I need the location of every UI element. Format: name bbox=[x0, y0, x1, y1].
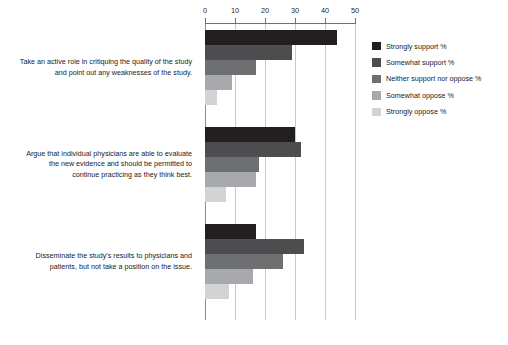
category-label-group: Take an active role in critiquing the qu… bbox=[0, 0, 198, 345]
legend-item-label: Neither support nor oppose % bbox=[386, 74, 482, 83]
bar-group-1-series-2 bbox=[205, 45, 292, 60]
legend-item-4[interactable]: Somewhat oppose % bbox=[372, 87, 482, 103]
category-label-line: continue practicing as they think best. bbox=[2, 170, 192, 180]
bar-group-1-series-1 bbox=[205, 30, 337, 45]
x-axis-tick-label: 50 bbox=[351, 6, 359, 15]
legend-item-1[interactable]: Strongly support % bbox=[372, 38, 482, 54]
gridline-20 bbox=[265, 24, 266, 320]
legend-swatch-icon bbox=[372, 75, 381, 84]
bar-group-3-series-3 bbox=[205, 254, 283, 269]
x-axis-tick-label: 20 bbox=[261, 6, 269, 15]
legend-swatch-icon bbox=[372, 58, 381, 67]
x-axis-tick-label: 40 bbox=[321, 6, 329, 15]
legend-item-label: Somewhat support % bbox=[386, 58, 454, 67]
bar-group-1-series-5 bbox=[205, 90, 217, 105]
gridline-30 bbox=[295, 24, 296, 320]
legend-item-label: Strongly oppose % bbox=[386, 107, 446, 116]
x-axis-tick-10 bbox=[235, 18, 236, 24]
legend-swatch-icon bbox=[372, 42, 381, 51]
bar-group-2-series-1 bbox=[205, 127, 295, 142]
bar-group-2-series-4 bbox=[205, 172, 256, 187]
legend-item-3[interactable]: Neither support nor oppose % bbox=[372, 71, 482, 87]
x-axis-tick-label: 0 bbox=[203, 6, 207, 15]
legend-item-label: Somewhat oppose % bbox=[386, 91, 454, 100]
category-label-3: Disseminate the study's results to physi… bbox=[2, 251, 192, 272]
legend-swatch-icon bbox=[372, 91, 381, 100]
x-axis-tick-label: 10 bbox=[231, 6, 239, 15]
legend-item-5[interactable]: Strongly oppose % bbox=[372, 104, 482, 120]
x-axis-tick-40 bbox=[325, 18, 326, 24]
category-label-line: Argue that individual physicians are abl… bbox=[2, 149, 192, 159]
horizontal-bar-chart: Take an active role in critiquing the qu… bbox=[0, 0, 508, 345]
chart-legend: Strongly support %Somewhat support %Neit… bbox=[372, 38, 482, 120]
legend-item-label: Strongly support % bbox=[386, 42, 447, 51]
bar-group-1-series-4 bbox=[205, 75, 232, 90]
x-axis-line bbox=[205, 23, 356, 24]
x-axis-tick-30 bbox=[295, 18, 296, 24]
legend-item-2[interactable]: Somewhat support % bbox=[372, 54, 482, 70]
bar-group-2-series-2 bbox=[205, 142, 301, 157]
category-label-2: Argue that individual physicians are abl… bbox=[2, 149, 192, 180]
bar-group-3-series-2 bbox=[205, 239, 304, 254]
bar-group-2-series-3 bbox=[205, 157, 259, 172]
category-label-line: Disseminate the study's results to physi… bbox=[2, 251, 192, 261]
category-label-line: the new evidence and should be permitted… bbox=[2, 159, 192, 169]
x-axis-tick-0 bbox=[205, 18, 206, 24]
x-axis-tick-label: 30 bbox=[291, 6, 299, 15]
bar-group-1-series-3 bbox=[205, 60, 256, 75]
gridline-40 bbox=[325, 24, 326, 320]
plot-area bbox=[205, 24, 355, 320]
gridline-50 bbox=[355, 24, 356, 320]
category-label-line: Take an active role in critiquing the qu… bbox=[2, 57, 192, 67]
category-label-1: Take an active role in critiquing the qu… bbox=[2, 57, 192, 78]
legend-swatch-icon bbox=[372, 108, 381, 117]
bar-group-2-series-5 bbox=[205, 187, 226, 202]
x-axis-tick-50 bbox=[355, 18, 356, 24]
x-axis-tick-20 bbox=[265, 18, 266, 24]
bar-group-3-series-4 bbox=[205, 269, 253, 284]
bar-group-3-series-1 bbox=[205, 224, 256, 239]
category-label-line: patients, but not take a position on the… bbox=[2, 262, 192, 272]
category-label-line: and point out any weaknesses of the stud… bbox=[2, 68, 192, 78]
bar-group-3-series-5 bbox=[205, 284, 229, 299]
